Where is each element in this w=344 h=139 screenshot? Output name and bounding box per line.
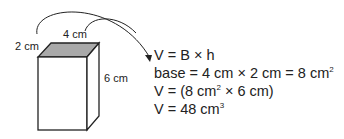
equation-volume-formula: V = B × h bbox=[154, 46, 214, 64]
arrowhead-icon bbox=[145, 55, 152, 62]
equation-text: base = 4 cm × 2 cm = 8 cm bbox=[154, 65, 329, 81]
equation-text: V = 48 cm bbox=[154, 101, 220, 117]
front-face bbox=[38, 57, 87, 130]
equation-base: base = 4 cm × 2 cm = 8 cm2 bbox=[154, 64, 334, 82]
equation-result: V = 48 cm3 bbox=[154, 100, 224, 118]
equation-substitution: V = (8 cm2 × 6 cm) bbox=[154, 82, 274, 100]
width-label: 4 cm bbox=[63, 28, 87, 40]
equation-text: V = B × h bbox=[154, 47, 214, 63]
exponent: 2 bbox=[329, 65, 333, 74]
right-face bbox=[87, 43, 99, 130]
equation-text: V = (8 cm bbox=[154, 83, 216, 99]
depth-label: 2 cm bbox=[15, 40, 39, 52]
height-label: 6 cm bbox=[104, 72, 128, 84]
exponent: 3 bbox=[220, 101, 224, 110]
equation-text: × 6 cm) bbox=[221, 83, 274, 99]
